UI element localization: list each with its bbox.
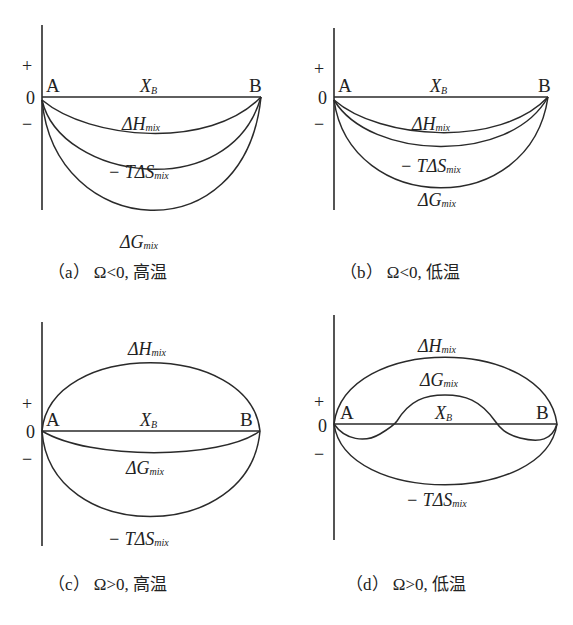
zero-label: 0 [26,422,35,442]
plus-label: + [314,392,324,412]
zero-label: 0 [26,88,35,108]
zero-label: 0 [318,416,327,436]
panel-a: + 0 − A B XB ΔHmix − TΔSmix ΔGmix （a） Ω<… [22,25,262,282]
TdS-label: − TΔSmix [108,529,169,549]
a-label: A [46,75,60,96]
a-label: A [46,409,60,430]
xb-label: XB [139,76,157,96]
panel-c: + 0 − A B XB ΔHmix ΔGmix − TΔSmix （c） Ω>… [22,322,260,594]
caption-c: （c） Ω>0, 高温 [48,575,167,594]
dG-curve [42,431,260,453]
b-label: B [249,75,262,96]
panel-d: + 0 − A B XB ΔHmix ΔGmix − TΔSmix （d） Ω>… [314,315,557,594]
xb-label: XB [434,403,452,423]
TdS-curve [334,424,557,485]
caption-a: （a） Ω<0, 高温 [48,263,167,282]
b-label: B [538,75,551,96]
dH-label: ΔHmix [411,114,451,134]
minus-label: − [22,449,32,469]
dG-label: ΔGmix [417,190,457,210]
dG-curve [42,97,261,210]
dH-label: ΔHmix [417,336,457,356]
dG-label: ΔGmix [119,232,159,252]
panel-b: + 0 − A B XB ΔHmix − TΔSmix ΔGmix （b） Ω<… [314,28,551,282]
a-label: A [338,75,352,96]
minus-label: − [314,114,324,134]
minus-label: − [22,114,32,134]
zero-label: 0 [318,88,327,108]
minus-label: − [314,444,324,464]
plus-label: + [22,56,32,76]
dH-label: ΔHmix [127,339,167,359]
caption-b: （b） Ω<0, 低温 [340,263,460,282]
mixing-free-energy-figure: + 0 − A B XB ΔHmix − TΔSmix ΔGmix （a） Ω<… [0,0,573,625]
dG-label: ΔGmix [125,458,165,478]
b-label: B [536,402,549,423]
dH-label: ΔHmix [121,114,161,134]
plus-label: + [314,59,324,79]
plus-label: + [22,394,32,414]
xb-label: XB [139,410,157,430]
a-label: A [340,402,354,423]
TdS-label: − TΔSmix [406,490,467,510]
dG-label: ΔGmix [419,370,459,390]
caption-d: （d） Ω>0, 低温 [346,575,466,594]
b-label: B [240,409,253,430]
xb-label: XB [429,76,447,96]
TdS-label: − TΔSmix [108,162,169,182]
TdS-label: − TΔSmix [400,156,461,176]
